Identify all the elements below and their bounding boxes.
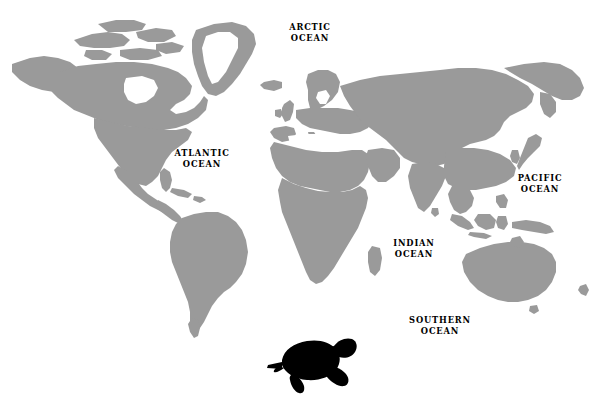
ocean-label-pacific: PACIFIC OCEAN <box>494 173 586 195</box>
ocean-label-pacific-line2: OCEAN <box>494 184 586 195</box>
ocean-label-atlantic-line2: OCEAN <box>150 159 253 170</box>
ocean-label-atlantic-line1: ATLANTIC <box>150 148 253 159</box>
ocean-label-atlantic: ATLANTIC OCEAN <box>150 148 253 170</box>
sea-turtle-icon <box>262 332 362 394</box>
ocean-label-indian-line1: INDIAN <box>362 238 465 249</box>
ocean-label-southern-line2: OCEAN <box>385 326 495 337</box>
ocean-label-southern: SOUTHERN OCEAN <box>385 315 495 337</box>
ocean-label-arctic-line1: ARCTIC <box>258 22 361 33</box>
ocean-label-indian: INDIAN OCEAN <box>362 238 465 260</box>
world-map-page: ARCTIC OCEAN ATLANTIC OCEAN PACIFIC OCEA… <box>0 0 599 397</box>
ocean-label-indian-line2: OCEAN <box>362 249 465 260</box>
ocean-label-southern-line1: SOUTHERN <box>385 315 495 326</box>
ocean-label-arctic-line2: OCEAN <box>258 33 361 44</box>
turtle-front-flipper <box>323 365 349 386</box>
ocean-label-arctic: ARCTIC OCEAN <box>258 22 361 44</box>
ocean-label-pacific-line1: PACIFIC <box>494 173 586 184</box>
